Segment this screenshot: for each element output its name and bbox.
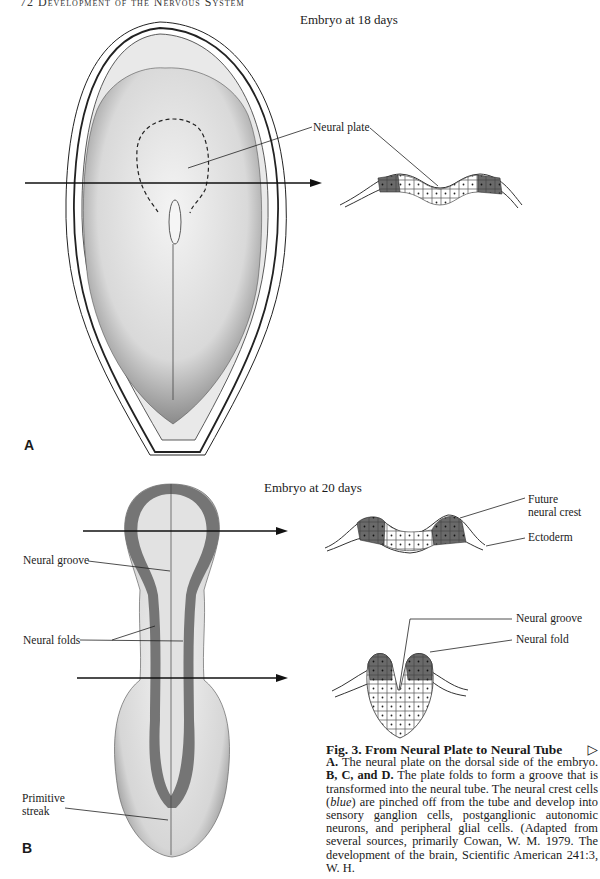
caption-blue-word: blue (330, 795, 351, 809)
neural-fold-section (332, 619, 512, 738)
label-neural-groove: Neural groove (23, 554, 89, 567)
label-primitive-streak-line2: streak (22, 805, 49, 818)
neural-plate-section (340, 128, 522, 208)
panel-b-letter: B (22, 840, 32, 856)
label-neural-fold: Neural fold (516, 633, 569, 646)
embryo-20-days-drawing (114, 484, 229, 857)
caption-body: A. The neural plate on the dorsal side o… (326, 756, 598, 875)
label-future-neural-crest-line2: neural crest (528, 506, 581, 519)
panel-b-title: Embryo at 20 days (264, 480, 362, 496)
label-neural-groove-section: Neural groove (516, 612, 582, 625)
label-primitive-streak-line1: Primitive (22, 792, 65, 805)
panel-a-letter: A (24, 437, 34, 453)
label-neural-folds: Neural folds (23, 634, 80, 647)
embryo-18-days-drawing (66, 22, 286, 455)
label-neural-plate: Neural plate (313, 121, 370, 134)
label-ectoderm: Ectoderm (528, 531, 573, 544)
caption-a-lead: A. (326, 755, 338, 769)
label-future-neural-crest-line1: Future (528, 493, 558, 506)
neural-groove-section (325, 498, 525, 553)
caption-bcd-lead: B, C, and D. (326, 768, 393, 782)
caption-a-text: The neural plate on the dorsal side of t… (338, 755, 598, 769)
figure-caption: Fig. 3. From Neural Plate to Neural Tube… (326, 743, 598, 875)
caption-bcd-text-2: ) are pinched off from the tube and deve… (326, 795, 598, 875)
